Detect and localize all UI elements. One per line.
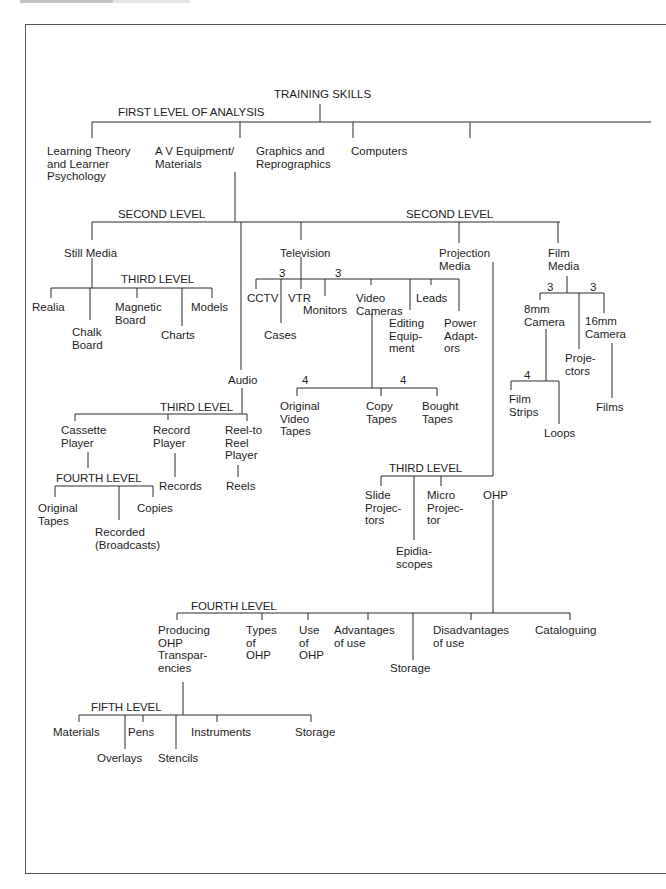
count-television-left: 3 — [279, 267, 285, 279]
label-fourth-level-audio: FOURTH LEVEL — [56, 472, 142, 484]
node-audio: Audio — [228, 374, 257, 387]
node-materials: Materials — [53, 726, 100, 739]
node-chalk-board: Chalk Board — [72, 326, 103, 351]
node-epidiascopes: Epidia- scopes — [396, 545, 432, 570]
node-cctv: CCTV — [247, 292, 278, 305]
node-leads: Leads — [416, 292, 447, 305]
node-advantages-of-use: Advantages of use — [334, 624, 395, 649]
node-films: Films — [596, 401, 623, 414]
node-copy-tapes: Copy Tapes — [366, 400, 397, 425]
node-projection-media: Projection Media — [439, 247, 490, 272]
node-magnetic-board: Magnetic Board — [115, 301, 162, 326]
node-learning-theory: Learning Theory and Learner Psychology — [47, 145, 131, 183]
node-power-adaptors: Power Adapt- ors — [444, 317, 478, 355]
node-reels: Reels — [226, 480, 255, 493]
node-realia: Realia — [32, 301, 65, 314]
node-computers: Computers — [351, 145, 407, 158]
node-models: Models — [191, 301, 228, 314]
node-stencils: Stencils — [158, 752, 198, 765]
node-16mm-camera: 16mm Camera — [585, 315, 626, 340]
count-video-right: 4 — [400, 374, 406, 386]
node-fifth-storage: Storage — [295, 726, 335, 739]
count-television-right: 3 — [335, 267, 341, 279]
node-recorded-broadcasts: Recorded (Broadcasts) — [95, 526, 160, 551]
node-television: Television — [280, 247, 331, 260]
node-film-media: Film Media — [548, 247, 579, 272]
node-bought-tapes: Bought Tapes — [422, 400, 458, 425]
count-film-right: 3 — [590, 281, 596, 293]
node-instruments: Instruments — [191, 726, 251, 739]
node-cassette-player: Cassette Player — [61, 424, 106, 449]
node-slide-projectors: Slide Projec- tors — [365, 489, 401, 527]
node-cataloguing: Cataloguing — [535, 624, 596, 637]
node-8mm-camera: 8mm Camera — [524, 303, 565, 328]
node-ohp: OHP — [483, 489, 508, 502]
node-disadvantages-of-use: Disadvantages of use — [433, 624, 509, 649]
node-vtr: VTR — [288, 292, 311, 305]
node-micro-projector: Micro Projec- tor — [427, 489, 463, 527]
label-second-level-right: SECOND LEVEL — [406, 208, 493, 220]
node-loops: Loops — [544, 427, 575, 440]
node-training-skills: TRAINING SKILLS — [274, 88, 371, 101]
label-fourth-level-ohp: FOURTH LEVEL — [191, 600, 277, 612]
node-record-player: Record Player — [153, 424, 190, 449]
count-film-left: 3 — [547, 281, 553, 293]
node-original-tapes: Original Tapes — [38, 502, 78, 527]
node-film-strips: Film Strips — [509, 393, 538, 418]
label-second-level-left: SECOND LEVEL — [118, 208, 205, 220]
node-records: Records — [159, 480, 202, 493]
node-copies: Copies — [137, 502, 173, 515]
node-video-cameras: Video Cameras — [356, 292, 403, 317]
node-charts: Charts — [161, 329, 195, 342]
count-video-left: 4 — [302, 374, 308, 386]
node-editing-equipment: Editing Equip- ment — [389, 317, 424, 355]
node-producing-ohp-transparencies: Producing OHP Transpar- encies — [158, 624, 210, 674]
label-first-level: FIRST LEVEL OF ANALYSIS — [118, 106, 264, 118]
node-graphics: Graphics and Reprographics — [256, 145, 331, 170]
node-reel-to-reel-player: Reel-to Reel Player — [225, 424, 262, 462]
node-monitors: Monitors — [303, 304, 347, 317]
label-fifth-level: FIFTH LEVEL — [91, 701, 161, 713]
label-third-level-still: THIRD LEVEL — [121, 273, 194, 285]
node-av-equipment: A V Equipment/ Materials — [155, 145, 234, 170]
node-use-of-ohp: Use of OHP — [299, 624, 324, 662]
node-pens: Pens — [128, 726, 154, 739]
node-ohp-storage: Storage — [390, 662, 430, 675]
count-8mm: 4 — [524, 369, 530, 381]
node-cases: Cases — [264, 329, 297, 342]
label-third-level-audio: THIRD LEVEL — [160, 401, 233, 413]
label-third-level-projection: THIRD LEVEL — [389, 462, 462, 474]
node-types-of-ohp: Types of OHP — [246, 624, 277, 662]
node-still-media: Still Media — [64, 247, 117, 260]
node-projectors: Proje- ctors — [565, 352, 596, 377]
node-original-video-tapes: Original Video Tapes — [280, 400, 320, 438]
node-overlays: Overlays — [97, 752, 142, 765]
